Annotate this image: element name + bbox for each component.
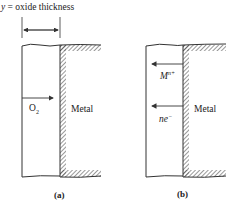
metal-hatch-vertical (60, 45, 66, 177)
metal-label-b: Metal (194, 105, 216, 115)
metal-hatch-bottom (60, 170, 101, 177)
caption-a: (a) (54, 191, 65, 200)
metal-hatch-top-b (183, 45, 226, 51)
ion-charge: n+ (168, 70, 175, 76)
metal-ion-label: Mn+ (160, 70, 175, 82)
thickness-text: = oxide thickness (5, 2, 74, 12)
metal-label-a: Metal (71, 105, 93, 115)
electron-charge: − (168, 113, 172, 119)
ion-symbol: M (160, 71, 168, 81)
metal-hatch-bottom-b (183, 170, 226, 177)
electron-symbol: ne (159, 114, 168, 124)
panel-a-diagram (22, 17, 101, 177)
metal-hatch-top (60, 45, 101, 51)
o2-label: O2 (29, 104, 39, 115)
caption-b: (b) (177, 190, 188, 199)
electron-label: ne− (159, 113, 172, 125)
oxide-thickness-label: y = oxide thickness (1, 3, 74, 13)
oxide-outline (22, 44, 60, 177)
metal-hatch-vertical-b (183, 45, 189, 177)
o2-subscript: 2 (36, 109, 39, 115)
o2-species: O (29, 103, 36, 113)
